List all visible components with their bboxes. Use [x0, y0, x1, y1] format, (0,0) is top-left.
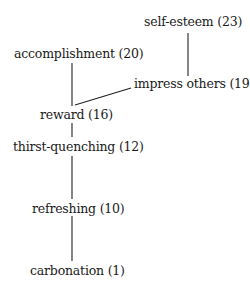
node-self-esteem: self-esteem (23) — [144, 15, 242, 29]
node-reward: reward (16) — [40, 108, 113, 122]
node-impress-others: impress others (19) — [134, 77, 250, 91]
edge-impress-others-reward — [75, 88, 131, 105]
node-thirst-quenching: thirst-quenching (12) — [13, 140, 144, 154]
node-accomplishment: accomplishment (20) — [14, 47, 143, 61]
ladder-diagram: self-esteem (23) accomplishment (20) imp… — [0, 0, 250, 289]
node-refreshing: refreshing (10) — [32, 202, 125, 216]
node-carbonation: carbonation (1) — [30, 264, 125, 278]
